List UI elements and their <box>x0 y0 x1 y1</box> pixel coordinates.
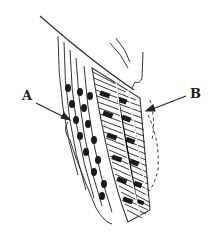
wing-illustration <box>0 0 209 234</box>
arrow-a <box>36 103 66 118</box>
label-b: B <box>190 87 201 100</box>
label-a: A <box>22 89 32 102</box>
arrow-b <box>150 96 186 110</box>
